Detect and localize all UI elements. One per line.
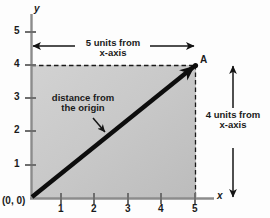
y-tick-label-1: 1 (14, 159, 20, 170)
x-tick-label-2: 2 (91, 204, 97, 215)
y-tick-label-3: 3 (14, 92, 20, 103)
x-axis-label: x (217, 191, 223, 202)
x-tick-label-1: 1 (58, 204, 64, 215)
top-span-annotation-line2: x-axis (78, 48, 148, 58)
origin-label: (0, 0) (2, 196, 25, 207)
y-tick-label-5: 5 (14, 26, 20, 37)
x-tick-label-3: 3 (125, 204, 131, 215)
coordinate-plane-figure: y x 5 4 3 2 1 1 2 3 4 5 (0, 0) A 5 units… (0, 0, 270, 218)
right-span-annotation: 4 units from x-axis (197, 110, 269, 130)
x-tick-label-5: 5 (192, 204, 198, 215)
point-a-label: A (200, 55, 207, 66)
distance-callout-annotation: distance from the origin (45, 93, 121, 113)
top-span-annotation: 5 units from x-axis (78, 38, 148, 58)
y-tick-label-4: 4 (14, 59, 20, 70)
point-a-marker (193, 63, 198, 68)
y-axis-label: y (34, 4, 40, 15)
right-span-annotation-line2: x-axis (197, 120, 269, 130)
distance-callout-line2: the origin (45, 103, 121, 113)
x-tick-label-4: 4 (158, 204, 164, 215)
y-tick-label-2: 2 (14, 125, 20, 136)
